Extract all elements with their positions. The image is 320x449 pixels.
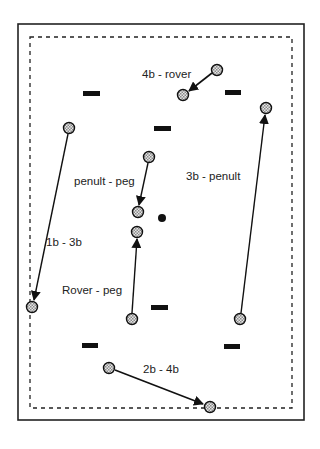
hoop-2 (225, 90, 241, 95)
label-1b-3b: 1b - 3b (46, 236, 82, 248)
hoop-5 (82, 343, 98, 348)
arrow-3b-penult (241, 115, 265, 313)
arrow-rover-peg (132, 239, 137, 313)
peg (158, 214, 166, 222)
ball-4b-start (212, 65, 223, 76)
croquet-court-diagram: 4b - rover 3b - penult penult - peg 1b -… (0, 0, 320, 449)
label-penult-peg: penult - peg (74, 175, 135, 187)
label-rover-peg: Rover - peg (62, 284, 122, 296)
ball-2b-end (205, 402, 216, 413)
arrow-2b-4b (115, 370, 203, 404)
label-3b-penult: 3b - penult (186, 170, 241, 182)
hoop-6 (224, 344, 240, 349)
ball-4b-end (178, 90, 189, 101)
ball-1b-start (64, 123, 75, 134)
ball-3b-start (235, 314, 246, 325)
label-4b-rover: 4b - rover (142, 68, 191, 80)
hoop-4 (151, 305, 168, 310)
arrow-penult-peg (139, 163, 148, 205)
court-boundary-dashed (30, 37, 292, 408)
ball-3b-end (261, 103, 272, 114)
arrow-4b-rover (189, 73, 212, 91)
ball-2b-start (104, 363, 115, 374)
hoop-1 (83, 91, 100, 96)
arrow-1b-3b (34, 134, 68, 300)
ball-penult-start (144, 152, 155, 163)
ball-rover-end (132, 227, 143, 238)
court-outer-border (18, 24, 304, 420)
ball-1b-end (27, 302, 38, 313)
label-2b-4b: 2b - 4b (143, 363, 179, 375)
ball-penult-end (133, 207, 144, 218)
ball-rover-start (127, 314, 138, 325)
hoop-3 (154, 126, 171, 131)
